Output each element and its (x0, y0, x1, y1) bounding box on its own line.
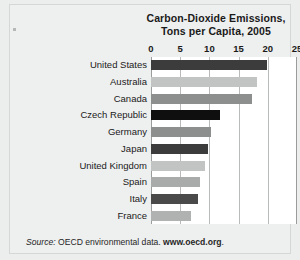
bar-japan (151, 144, 208, 154)
x-tick-20: 20 (263, 43, 274, 54)
category-label-italy: Italy (16, 193, 147, 204)
plot-area (151, 57, 297, 224)
bar-united-kingdom (151, 161, 205, 171)
decorative-speck (13, 28, 16, 31)
category-labels: United StatesAustraliaCanadaCzech Republ… (16, 57, 147, 224)
category-label-germany: Germany (16, 126, 147, 137)
gridline-20 (268, 57, 269, 224)
chart-title-line-1: Carbon-Dioxide Emissions, (130, 12, 300, 25)
x-tick-0: 0 (148, 43, 153, 54)
category-label-canada: Canada (16, 93, 147, 104)
chart-title: Carbon-Dioxide Emissions, Tons per Capit… (130, 12, 300, 37)
category-label-japan: Japan (16, 143, 147, 154)
bar-france (151, 211, 191, 221)
x-tick-25: 25 (292, 43, 300, 54)
bar-germany (151, 127, 211, 137)
source-tail: . (222, 237, 224, 247)
chart-title-line-2: Tons per Capita, 2005 (130, 25, 300, 38)
x-axis-tick-labels: 0510152025 (151, 43, 297, 56)
bar-czech-republic (151, 110, 220, 120)
bar-italy (151, 194, 198, 204)
gridline-25 (296, 57, 297, 224)
category-label-australia: Australia (16, 76, 147, 87)
source-label: Source: (26, 237, 56, 247)
bar-spain (151, 177, 200, 187)
bar-australia (151, 77, 257, 87)
source-text: OECD environmental data. (56, 237, 161, 247)
x-tick-10: 10 (204, 43, 215, 54)
category-label-united-kingdom: United Kingdom (16, 160, 147, 171)
bar-united-states (151, 60, 267, 70)
source-url[interactable]: www.oecd.org (161, 237, 222, 247)
chart-figure: Carbon-Dioxide Emissions, Tons per Capit… (9, 4, 291, 254)
category-label-czech-republic: Czech Republic (16, 109, 147, 120)
source-note: Source: OECD environmental data. www.oec… (26, 237, 224, 247)
bar-canada (151, 94, 252, 104)
category-label-spain: Spain (16, 176, 147, 187)
x-tick-5: 5 (178, 43, 183, 54)
category-label-united-states: United States (16, 59, 147, 70)
x-tick-15: 15 (233, 43, 244, 54)
category-label-france: France (16, 210, 147, 221)
